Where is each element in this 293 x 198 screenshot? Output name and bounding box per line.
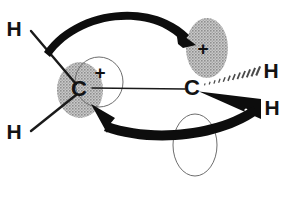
atom-label-carbon-right: C — [184, 75, 200, 100]
atom-label-h-lower-left: H — [6, 120, 21, 143]
bond-carbon-carbon — [92, 88, 185, 89]
arrow-bottom-electron-flow — [91, 104, 258, 140]
atom-label-h-upper-right: H — [263, 59, 278, 82]
bond-h-upper-left — [31, 31, 76, 84]
atom-label-h-lower-right: H — [264, 96, 279, 119]
orbital-outline-bottom — [173, 114, 217, 176]
charge-label-plus-left-carbon: + — [94, 62, 105, 83]
arrow-top-electron-flow — [44, 12, 196, 57]
charge-label-plus-right-orbital: + — [197, 38, 208, 59]
diagram-canvas: H H C C H H + + — [0, 0, 293, 198]
chemistry-diagram: H H C C H H + + — [0, 0, 293, 198]
atom-label-h-upper-left: H — [6, 17, 21, 40]
atom-label-carbon-left: C — [71, 76, 87, 101]
